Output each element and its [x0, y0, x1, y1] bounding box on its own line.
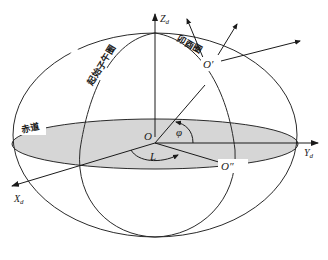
o-prime-label: O′ — [203, 58, 214, 70]
origin-label: O — [144, 130, 152, 142]
diagram-svg: Zd Yd Xd O O′ O″ L φ 赤道 起始子午圈 卯酉圈 — [0, 0, 328, 260]
x-axis-label: Xd — [13, 193, 24, 206]
z-axis-label: Zd — [160, 13, 170, 26]
longitude-label: L — [149, 150, 156, 162]
latitude-label: φ — [176, 126, 182, 138]
o-prime-arrow-right — [221, 41, 300, 61]
ellipsoid-coordinate-diagram: Zd Yd Xd O O′ O″ L φ 赤道 起始子午圈 卯酉圈 — [0, 0, 328, 260]
o-double-prime-label: O″ — [221, 160, 234, 172]
y-axis-label: Yd — [304, 147, 314, 160]
